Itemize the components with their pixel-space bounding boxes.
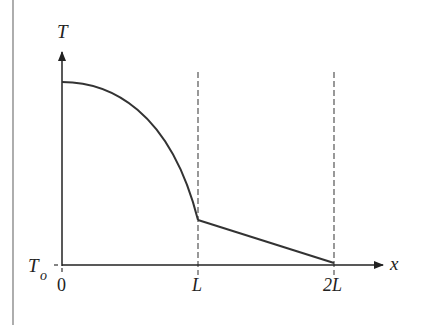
baseline-subscript: o (40, 268, 47, 283)
parabolic-curve (62, 82, 198, 220)
x-tick-0: 0 (57, 275, 66, 295)
x-tick-L: L (191, 275, 202, 295)
x-tick-2L: 2L (323, 275, 342, 295)
x-axis-label: x (389, 253, 399, 274)
baseline-label: T (28, 255, 40, 276)
linear-segment (198, 220, 334, 263)
temperature-profile-diagram: T x T o 0 L 2L (0, 0, 425, 325)
diagram-canvas: T x T o 0 L 2L (0, 0, 425, 325)
y-axis-label: T (57, 21, 69, 42)
